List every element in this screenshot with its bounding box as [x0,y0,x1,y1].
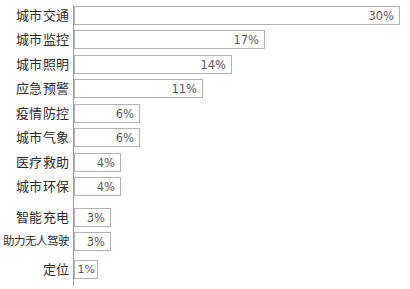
bar-value-label: 4% [97,154,115,171]
bar-row: 城市照明 14% [0,54,410,75]
bar-row: 疫情防控 6% [0,103,410,124]
category-label: 应急预警 [16,78,69,99]
category-label: 疫情防控 [16,103,69,124]
category-label: 城市交通 [16,5,69,26]
bar-row: 城市监控 17% [0,29,410,50]
bar-row: 应急预警 11% [0,78,410,99]
bar-value-label: 17% [233,31,259,48]
bar-value-label: 1% [78,261,95,278]
bar-value-label: 3% [87,209,105,226]
category-label: 城市气象 [16,127,69,148]
bar-value-label: 6% [116,105,134,122]
bar[interactable]: 4% [74,177,121,196]
bar-value-label: 4% [97,178,115,195]
bar-row: 助力无人驾驶 3% [0,231,410,252]
category-label: 助力无人驾驶 [3,231,69,252]
bar-value-label: 30% [368,7,394,24]
category-label: 城市照明 [16,54,69,75]
bar-row: 城市气象 6% [0,127,410,148]
bar[interactable]: 6% [74,104,140,123]
bar[interactable]: 11% [74,79,203,98]
category-label: 城市环保 [16,176,69,197]
category-label: 医疗救助 [16,152,69,173]
bar-row: 医疗救助 4% [0,152,410,173]
bar[interactable]: 14% [74,55,232,74]
bar[interactable]: 30% [74,6,400,25]
category-label: 智能充电 [16,207,69,228]
bar[interactable]: 1% [74,260,98,279]
bar[interactable]: 17% [74,30,265,49]
bar[interactable]: 3% [74,208,111,227]
bar-value-label: 3% [87,233,105,250]
bar[interactable]: 3% [74,232,111,251]
bar-chart: 城市交通 30% 城市监控 17% 城市照明 14% 应急预警 11% 疫情防控… [0,0,410,289]
bar-row: 定位 1% [0,259,410,280]
bar-row: 智能充电 3% [0,207,410,228]
bar-value-label: 14% [200,56,226,73]
bar[interactable]: 4% [74,153,121,172]
bar[interactable]: 6% [74,128,140,147]
bar-value-label: 6% [116,129,134,146]
bar-value-label: 11% [171,80,197,97]
category-label: 定位 [43,259,69,280]
bar-row: 城市环保 4% [0,176,410,197]
bar-row: 城市交通 30% [0,5,410,26]
category-label: 城市监控 [16,29,69,50]
